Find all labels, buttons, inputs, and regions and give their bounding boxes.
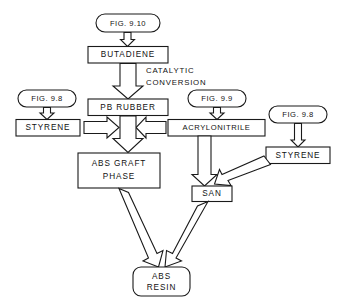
arrow-fig98left-to-styreneleft [40,108,54,120]
san-label: SAN [202,189,222,198]
arrow-fig98right-to-styreneright [291,124,305,148]
catalytic-line1: CATALYTIC [146,66,194,75]
edge-label-catalytic-conversion: CATALYTIC CONVERSION [146,66,206,87]
pb-rubber-label: PB RUBBER [100,103,155,112]
node-abs-resin: ABS RESIN [133,267,190,296]
arrow-styreneleft-to-graft [84,117,119,138]
arrow-styreneright-to-san [215,156,271,186]
butadiene-label: BUTADIENE [101,50,155,59]
catalytic-line2: CONVERSION [146,78,206,87]
node-styrene-left: STYRENE [16,120,80,137]
diagram-canvas: FIG. 9.10 BUTADIENE CATALYTIC CONVERSION… [0,0,342,306]
fig-9-9-label: FIG. 9.9 [201,94,232,103]
node-fig-9-8-right: FIG. 9.8 [269,106,327,123]
node-styrene-right: STYRENE [266,147,330,164]
arrow-fig910-to-butadiene [121,33,135,47]
arrow-acrylonitrile-to-san [192,136,217,186]
abs-graft-phase-label-line1: ABS GRAFT [92,159,147,168]
fig-9-8-right-label: FIG. 9.8 [282,110,313,119]
arrow-fig99-to-acrylonitrile [210,108,224,120]
arrow-san-to-abs-resin [165,202,208,268]
node-san: SAN [192,186,232,202]
node-abs-graft-phase: ABS GRAFT PHASE [78,153,160,188]
abs-resin-label-line2: RESIN [147,283,177,292]
fig-9-8-left-label: FIG. 9.8 [31,94,62,103]
arrow-butadiene-to-pbrubber [113,64,143,100]
arrow-abs-graft-to-abs-resin [119,189,163,268]
fig-9-10-label: FIG. 9.10 [110,19,146,28]
abs-resin-label-line1: ABS [152,272,171,281]
node-fig-9-9: FIG. 9.9 [188,90,246,107]
node-fig-9-10: FIG. 9.10 [96,14,160,32]
node-fig-9-8-left: FIG. 9.8 [18,90,76,107]
acrylonitrile-label: ACRYLONITRILE [182,123,250,132]
styrene-right-label: STYRENE [276,151,321,160]
arrow-merge-to-abs-graft-phase [113,116,143,153]
styrene-left-label: STYRENE [26,123,71,132]
arrow-acrylonitrile-to-graft [136,117,166,138]
node-butadiene: BUTADIENE [88,47,168,64]
node-pb-rubber: PB RUBBER [88,99,168,116]
abs-graft-phase-label-line2: PHASE [103,172,135,181]
flowchart-svg: FIG. 9.10 BUTADIENE CATALYTIC CONVERSION… [0,0,342,306]
node-acrylonitrile: ACRYLONITRILE [168,120,265,137]
